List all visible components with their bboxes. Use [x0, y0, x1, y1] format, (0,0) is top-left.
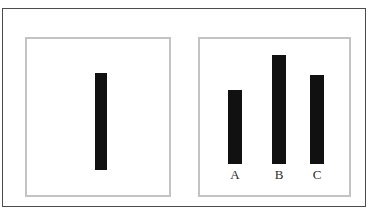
cropped-text-remnant: [0, 0, 372, 7]
bar-a: [228, 90, 242, 164]
bar-b: [272, 55, 286, 164]
bar-label-a: A: [225, 168, 245, 181]
bar-c: [310, 75, 324, 164]
bar-label-c: C: [307, 168, 327, 181]
left-panel: [25, 37, 171, 197]
left-panel-bar: [95, 73, 107, 170]
right-panel: A B C: [198, 37, 351, 197]
outer-frame-box: A B C: [2, 8, 366, 207]
bar-label-b: B: [269, 168, 289, 181]
figure-root: A B C: [0, 0, 372, 215]
